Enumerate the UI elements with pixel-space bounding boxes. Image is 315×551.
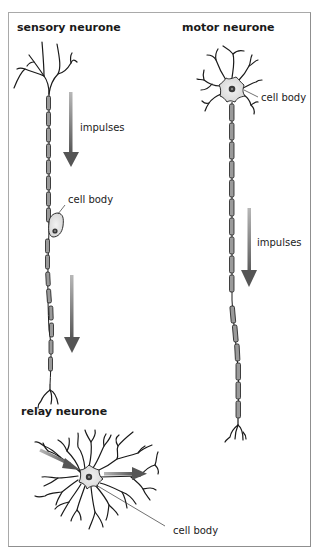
relay-cell-body-label: cell body — [173, 525, 218, 536]
sensory-dendrites — [14, 42, 77, 94]
relay-cell-body — [79, 465, 103, 489]
motor-cell-body — [219, 77, 245, 102]
sensory-impulse-arrow-lower — [64, 275, 80, 353]
relay-neurone: relay neurone — [21, 405, 218, 536]
sensory-cell-body-leader — [58, 205, 65, 214]
motor-axon-terminals — [225, 420, 246, 442]
motor-impulse-arrow — [241, 208, 257, 287]
relay-neurone-title: relay neurone — [21, 405, 107, 418]
motor-neurone-title: motor neurone — [182, 21, 275, 34]
sensory-impulse-arrow-upper — [63, 92, 79, 167]
sensory-cell-body — [49, 213, 64, 237]
motor-cell-body-label: cell body — [261, 92, 306, 103]
neurone-diagram: sensory neurone — [0, 0, 315, 551]
motor-neurone: motor neurone cell body — [182, 21, 306, 442]
relay-impulse-arrow-out — [104, 467, 147, 480]
motor-axon — [230, 102, 241, 420]
sensory-axon — [46, 94, 54, 385]
sensory-neurone: sensory neurone — [14, 21, 125, 408]
motor-impulses-label: impulses — [257, 237, 302, 248]
sensory-cell-body-label: cell body — [68, 194, 113, 205]
sensory-neurone-title: sensory neurone — [17, 21, 121, 34]
motor-cell-body-leader — [244, 90, 258, 97]
sensory-impulses-label: impulses — [80, 122, 125, 133]
